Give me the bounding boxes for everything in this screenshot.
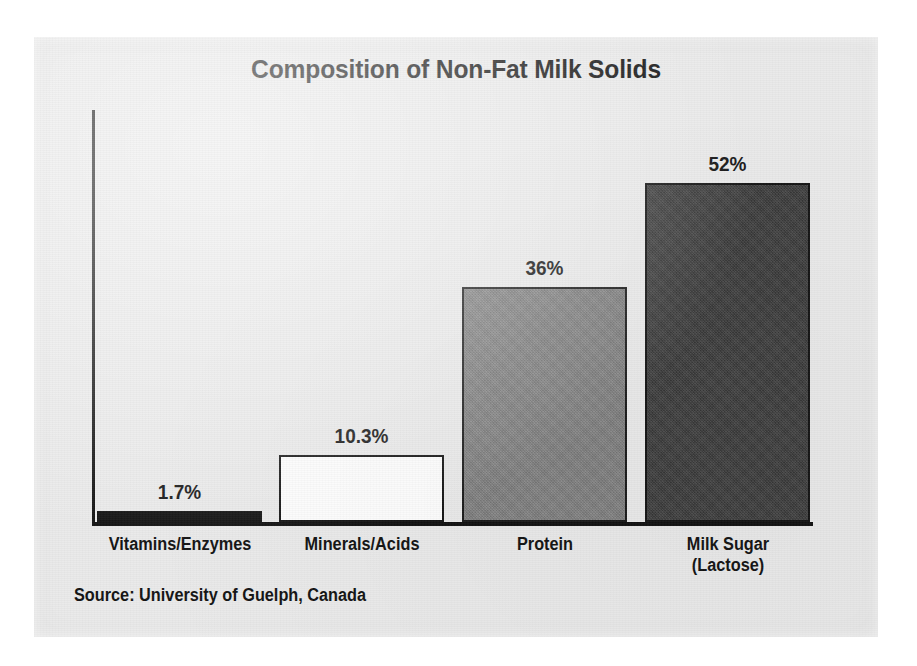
y-axis-line <box>92 110 95 525</box>
category-label-line1: Milk Sugar <box>686 534 768 554</box>
bar[interactable] <box>279 455 444 522</box>
plot-area: 1.7%10.3%36%52% Vitamins/EnzymesMinerals… <box>34 37 878 637</box>
bar-value-label: 36% <box>466 257 623 280</box>
category-label: Vitamins/Enzymes <box>91 534 268 555</box>
bar-value-label: 52% <box>649 153 806 176</box>
bar-value-label: 10.3% <box>283 425 440 448</box>
category-label-line1: Vitamins/Enzymes <box>108 534 251 554</box>
category-label-line1: Protein <box>516 534 572 554</box>
chart-page: Composition of Non-Fat Milk Solids 1.7%1… <box>0 0 917 666</box>
category-label: Milk Sugar(Lactose) <box>639 534 816 576</box>
bar[interactable] <box>645 183 810 522</box>
category-label: Minerals/Acids <box>273 534 450 555</box>
category-label-line2: (Lactose) <box>639 555 816 576</box>
x-axis-baseline <box>92 522 813 526</box>
category-label-line1: Minerals/Acids <box>304 534 419 554</box>
bar[interactable] <box>462 287 627 522</box>
source-note: Source: University of Guelph, Canada <box>74 585 366 606</box>
chart-panel: Composition of Non-Fat Milk Solids 1.7%1… <box>34 37 878 637</box>
bar-value-label: 1.7% <box>101 481 258 504</box>
bar[interactable] <box>97 511 262 522</box>
chart-title: Composition of Non-Fat Milk Solids <box>64 54 849 85</box>
category-label: Protein <box>456 534 633 555</box>
